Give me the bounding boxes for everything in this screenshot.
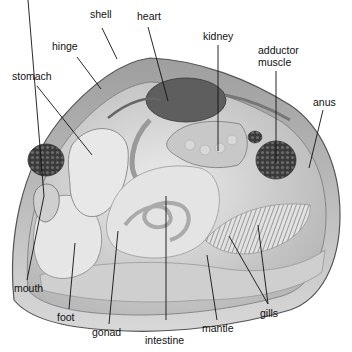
label-mouth: mouth xyxy=(14,282,43,294)
label-kidney: kidney xyxy=(203,30,233,42)
label-heart: heart xyxy=(137,10,161,22)
label-gonad: gonad xyxy=(92,326,121,338)
anterior-adductor-muscle xyxy=(28,144,64,176)
small-muscle xyxy=(248,131,262,143)
clam-anatomy-diagram xyxy=(0,0,352,352)
label-anus: anus xyxy=(313,96,336,108)
label-gills: gills xyxy=(260,307,278,319)
label-adductor-muscle-line1: adductor xyxy=(258,44,299,56)
label-hinge: hinge xyxy=(52,40,78,52)
label-intestine: intestine xyxy=(145,334,184,346)
label-adductor-muscle-line2: muscle xyxy=(258,56,291,68)
label-foot: foot xyxy=(57,311,75,323)
label-shell: shell xyxy=(90,8,112,20)
label-mantle: mantle xyxy=(202,322,234,334)
label-stomach: stomach xyxy=(12,70,52,82)
